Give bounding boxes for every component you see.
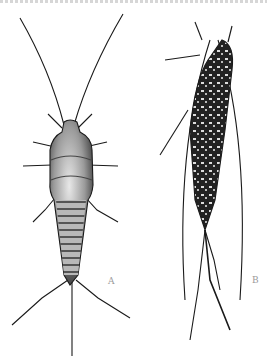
specimen-a — [12, 14, 130, 356]
panel-label-a: A — [107, 276, 115, 286]
specimen-b — [160, 22, 242, 340]
panel-label-b: B — [252, 275, 259, 285]
silverfish-illustration: A B — [0, 0, 267, 356]
